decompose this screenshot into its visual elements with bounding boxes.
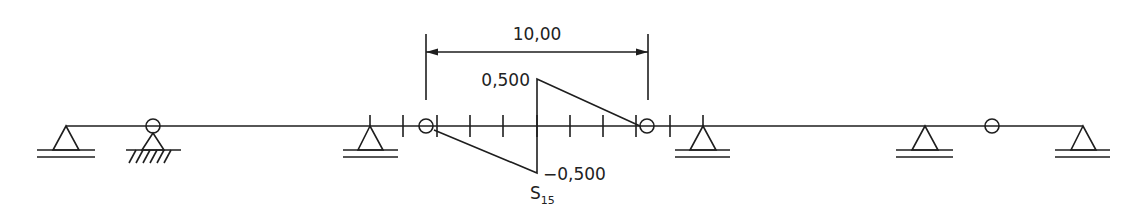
roller-support-1 bbox=[37, 126, 95, 157]
roller-support-3 bbox=[675, 115, 730, 157]
beam-diagram: 10,00 0,500 −0,500 S15 bbox=[0, 0, 1137, 217]
ordinate-bottom-label: −0,500 bbox=[543, 164, 606, 184]
roller-support-2 bbox=[343, 115, 398, 157]
influence-label: S15 bbox=[530, 183, 555, 207]
dimension-label: 10,00 bbox=[513, 24, 562, 44]
roller-support-4 bbox=[896, 126, 953, 157]
ordinate-top-label: 0,500 bbox=[481, 70, 530, 90]
influence-label-sub: 15 bbox=[541, 194, 555, 207]
roller-support-5 bbox=[1055, 126, 1110, 157]
influence-label-main: S bbox=[530, 183, 541, 203]
